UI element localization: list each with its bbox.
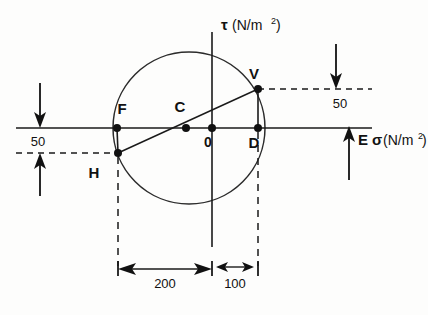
tau-axis-units-open: (N/m bbox=[232, 17, 262, 33]
sigma-axis-units-close: ) bbox=[422, 132, 427, 148]
mohr-circle-svg: F C 0 D V H τ (N/m 2 ) E σ (N/m 2 ) 50 5… bbox=[0, 0, 428, 315]
point-c-marker bbox=[182, 124, 190, 132]
point-label-c: C bbox=[175, 98, 186, 115]
point-label-o: 0 bbox=[204, 134, 212, 150]
point-label-v: V bbox=[249, 65, 259, 82]
left-load-value: 50 bbox=[31, 134, 45, 149]
sigma-axis-end-label-e: E bbox=[358, 131, 368, 148]
point-d-marker bbox=[254, 124, 262, 132]
right-load-value: 50 bbox=[333, 96, 347, 111]
sigma-axis-units-open: (N/m bbox=[383, 132, 413, 148]
dim-label-100: 100 bbox=[224, 276, 246, 291]
point-label-f: F bbox=[117, 100, 126, 117]
sigma-axis-symbol: σ bbox=[372, 131, 382, 148]
mohr-circle-figure: F C 0 D V H τ (N/m 2 ) E σ (N/m 2 ) 50 5… bbox=[0, 0, 428, 315]
tau-axis-symbol: τ bbox=[221, 16, 228, 33]
point-label-h: H bbox=[89, 164, 100, 181]
pole-line-hv bbox=[118, 89, 258, 153]
point-v-marker bbox=[254, 85, 262, 93]
point-f-marker bbox=[113, 124, 121, 132]
point-label-d: D bbox=[249, 134, 260, 151]
point-o-marker bbox=[208, 124, 216, 132]
point-h-marker bbox=[114, 149, 122, 157]
tau-axis-units-close: ) bbox=[276, 17, 281, 33]
dim-label-200: 200 bbox=[154, 276, 176, 291]
